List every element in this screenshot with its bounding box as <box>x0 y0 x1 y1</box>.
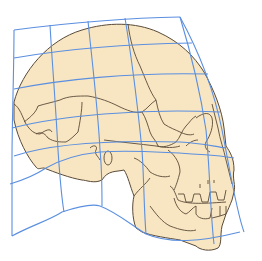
figure-canvas: Human skull in lateral view on a deforme… <box>0 0 262 261</box>
grid-col-1 <box>12 30 14 236</box>
skull-grid-illustration <box>0 0 262 261</box>
